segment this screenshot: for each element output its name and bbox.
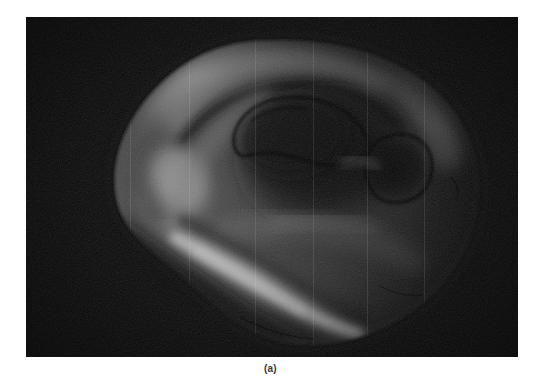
- figure-container: (a): [0, 0, 541, 386]
- figure-caption: (a): [0, 362, 541, 376]
- ear-image-canvas: [26, 17, 518, 357]
- film-grain: [26, 17, 518, 357]
- ear-image-panel: [26, 17, 518, 357]
